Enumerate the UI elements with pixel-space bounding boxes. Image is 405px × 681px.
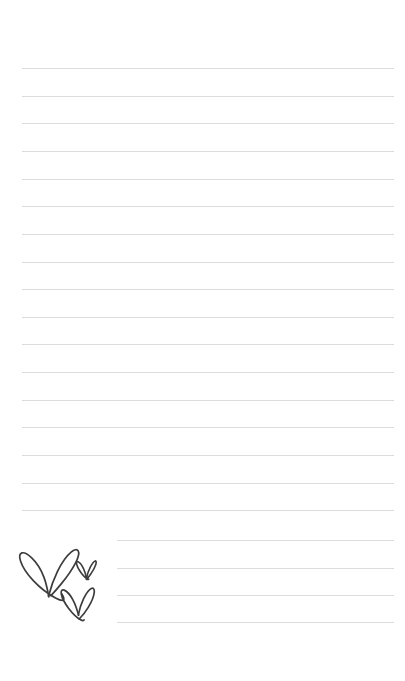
ruled-line	[22, 68, 394, 69]
medium-heart-right-lobe-stroke	[78, 588, 94, 619]
medium-heart-stroke	[61, 590, 84, 621]
small-heart-icon	[77, 561, 97, 580]
small-heart-stroke	[77, 562, 89, 580]
ruled-line	[22, 344, 394, 345]
ruled-line	[22, 455, 394, 456]
ruled-line	[22, 289, 394, 290]
ruled-line	[22, 179, 394, 180]
ruled-line	[22, 206, 394, 207]
ruled-line	[22, 427, 394, 428]
ruled-line	[22, 372, 394, 373]
small-heart-right-lobe-stroke	[86, 561, 96, 580]
hearts-doodle	[0, 0, 405, 681]
ruled-line	[22, 96, 394, 97]
ruled-line	[22, 400, 394, 401]
medium-heart-icon	[61, 588, 94, 620]
ruled-line	[22, 262, 394, 263]
ruled-line	[22, 483, 394, 484]
ruled-line-indented	[117, 568, 394, 569]
large-heart-icon	[20, 550, 79, 601]
ruled-line	[22, 151, 394, 152]
notepaper-page	[0, 0, 405, 681]
ruled-line	[22, 317, 394, 318]
ruled-line-indented	[117, 622, 394, 623]
ruled-line	[22, 123, 394, 124]
ruled-line	[22, 234, 394, 235]
large-heart-right-lobe-stroke	[49, 550, 79, 596]
large-heart-stroke	[20, 553, 64, 601]
ruled-line-indented	[117, 595, 394, 596]
ruled-line-indented	[117, 540, 394, 541]
hearts-doodle-svg	[0, 0, 405, 681]
ruled-line	[22, 510, 394, 511]
